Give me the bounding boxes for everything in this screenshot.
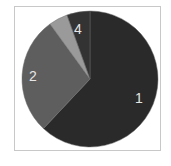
pie-chart: 124 xyxy=(0,0,171,166)
slice-label-2: 2 xyxy=(29,68,37,84)
slice-label-4: 4 xyxy=(74,21,82,37)
slice-label-1: 1 xyxy=(135,90,143,106)
